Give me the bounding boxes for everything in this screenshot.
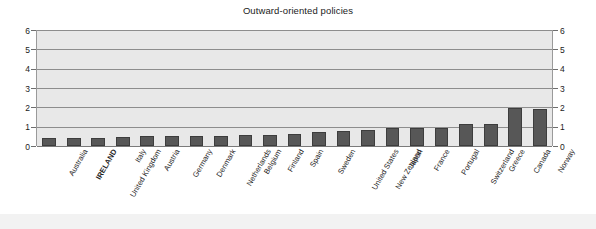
- y-axis-left-tick-5: 5: [6, 45, 30, 55]
- y-axis-left-tick-3: 3: [6, 84, 30, 94]
- y-axis-left-tickmark-6: [31, 30, 36, 31]
- y-axis-left-tick-0: 0: [6, 142, 30, 152]
- bar-greece: [484, 124, 498, 146]
- x-axis-label-australia: Australia: [68, 148, 89, 177]
- y-axis-right-tick-3: 3: [560, 84, 584, 94]
- y-axis-right-tickmark-3: [553, 88, 558, 89]
- x-axis-label-portugal: Portugal: [460, 148, 481, 176]
- bar-belgium: [239, 135, 253, 146]
- bar-denmark: [190, 136, 204, 146]
- y-axis-left-tickmark-3: [31, 88, 36, 89]
- page-bottom-edge: [0, 214, 596, 229]
- bar-new-zealand: [361, 130, 375, 146]
- chart-container: Outward-oriented policies 00112233445566…: [0, 0, 596, 229]
- y-axis-right-tickmark-5: [553, 49, 558, 50]
- bar-norway: [533, 109, 547, 146]
- y-axis-right-tickmark-6: [553, 30, 558, 31]
- y-axis-right-tickmark-4: [553, 69, 558, 70]
- bar-spain: [288, 134, 302, 146]
- y-axis-left-tickmark-5: [31, 49, 36, 50]
- y-axis-left-tickmark-1: [31, 127, 36, 128]
- x-axis-label-denmark: Denmark: [216, 148, 238, 178]
- x-axis-label-japan: Japan: [407, 148, 424, 170]
- y-axis-left-tick-6: 6: [6, 26, 30, 36]
- bar-australia: [42, 138, 56, 146]
- bar-ireland: [67, 138, 81, 146]
- bar-germany: [165, 136, 179, 146]
- y-axis-left-tick-4: 4: [6, 64, 30, 74]
- bars-layer: [37, 30, 552, 146]
- y-axis-right-tick-2: 2: [560, 103, 584, 113]
- bar-japan: [386, 128, 400, 146]
- bar-united-kingdom: [91, 138, 105, 146]
- bar-austria: [140, 136, 154, 146]
- bar-france: [410, 128, 424, 146]
- x-axis-label-canada: Canada: [533, 148, 553, 175]
- x-axis-label-ireland: IRELAND: [95, 148, 118, 181]
- x-axis-label-france: France: [433, 148, 451, 172]
- y-axis-right-tickmark-1: [553, 127, 558, 128]
- x-axis-label-finland: Finland: [286, 148, 305, 173]
- x-axis-label-austria: Austria: [163, 148, 181, 172]
- y-axis-left-tick-2: 2: [6, 103, 30, 113]
- bar-portugal: [435, 128, 449, 146]
- x-axis-label-germany: Germany: [191, 148, 213, 179]
- y-axis-left-tick-1: 1: [6, 122, 30, 132]
- bar-canada: [508, 108, 522, 146]
- chart-title: Outward-oriented policies: [0, 5, 596, 16]
- bar-italy: [116, 137, 130, 146]
- bar-switzerland: [459, 124, 473, 146]
- x-axis-label-spain: Spain: [308, 148, 324, 169]
- y-axis-right-tick-6: 6: [560, 26, 584, 36]
- bar-netherlands: [214, 136, 228, 146]
- x-axis-label-italy: Italy: [134, 148, 148, 164]
- y-axis-right-tickmark-0: [553, 146, 558, 147]
- y-axis-right-tick-5: 5: [560, 45, 584, 55]
- bar-finland: [263, 135, 277, 146]
- y-axis-left-tickmark-2: [31, 107, 36, 108]
- bar-united-states: [337, 131, 351, 146]
- y-axis-right-tick-1: 1: [560, 122, 584, 132]
- y-axis-right-tickmark-2: [553, 107, 558, 108]
- x-axis-label-norway: Norway: [557, 148, 576, 174]
- y-axis-left-tickmark-0: [31, 146, 36, 147]
- y-axis-left-tickmark-4: [31, 69, 36, 70]
- y-axis-right-tick-4: 4: [560, 64, 584, 74]
- bar-sweden: [312, 132, 326, 147]
- gridline-0: [37, 146, 552, 147]
- x-axis-label-sweden: Sweden: [337, 148, 357, 176]
